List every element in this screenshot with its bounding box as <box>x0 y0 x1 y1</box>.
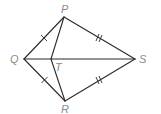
segment-rs <box>65 59 135 101</box>
point-label-s: S <box>139 53 147 65</box>
point-label-q: Q <box>10 53 19 65</box>
point-label-p: P <box>61 3 69 15</box>
segment-ps <box>64 17 135 59</box>
point-label-t: T <box>55 61 63 73</box>
point-label-r: R <box>61 103 69 114</box>
geometry-diagram: P Q T R S <box>0 0 161 114</box>
